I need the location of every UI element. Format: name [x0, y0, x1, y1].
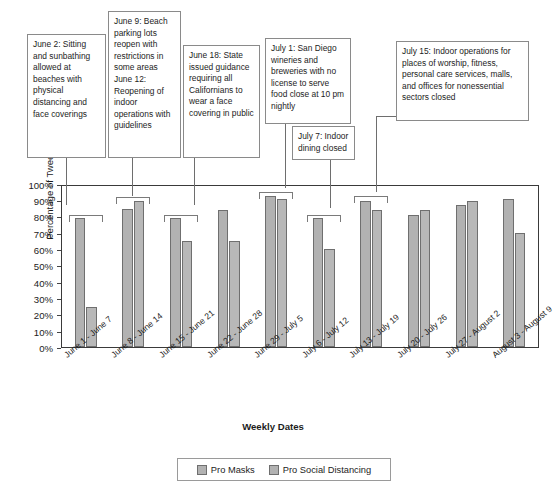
y-tick-mark-100 [57, 185, 61, 186]
y-tick-label-80: 80% [17, 212, 53, 223]
group-bracket-2 [164, 215, 198, 222]
y-tick-mark-20 [57, 315, 61, 316]
annotation-text: July 15: Indoor operations for places of… [402, 46, 512, 102]
y-tick-label-40: 40% [17, 278, 53, 289]
legend-item-pro-masks: Pro Masks [197, 465, 255, 475]
y-tick-mark-40 [57, 283, 61, 284]
y-tick-label-20: 20% [17, 310, 53, 321]
annotation-june-18: June 18: State issued guidance requiring… [183, 45, 260, 158]
y-tick-label-90: 90% [17, 196, 53, 207]
legend-swatch-icon [197, 465, 207, 475]
y-tick-label-0: 0% [17, 343, 53, 354]
annotation-text: July 1: San Diego wineries and breweries… [271, 43, 344, 111]
y-tick-label-100: 100% [17, 180, 53, 191]
y-tick-mark-0 [57, 348, 61, 349]
annotation-text: July 7: Indoor dining closed [298, 131, 348, 153]
y-tick-mark-50 [57, 266, 61, 267]
legend-item-pro-social-distancing: Pro Social Distancing [269, 465, 371, 475]
leader-line-july-15-horizontal [376, 116, 398, 117]
annotation-july-1: July 1: San Diego wineries and breweries… [265, 38, 351, 124]
group-bracket-0 [69, 215, 103, 222]
y-tick-label-70: 70% [17, 229, 53, 240]
annotation-july-7: July 7: Indoor dining closed [292, 126, 355, 160]
y-tick-label-50: 50% [17, 261, 53, 272]
group-bracket-5 [307, 215, 341, 222]
group-bracket-1 [116, 197, 150, 204]
leader-line-july-15-vertical [376, 116, 377, 192]
y-tick-mark-70 [57, 234, 61, 235]
legend-label: Pro Masks [211, 465, 255, 475]
y-tick-mark-30 [57, 299, 61, 300]
y-tick-mark-90 [57, 201, 61, 202]
group-bracket-4 [259, 192, 293, 199]
annotation-text: June 9: Beach parking lots reopen with r… [114, 16, 170, 130]
y-tick-mark-80 [57, 217, 61, 218]
annotation-july-15: July 15: Indoor operations for places of… [396, 41, 529, 121]
chart-legend: Pro Masks Pro Social Distancing [177, 458, 391, 481]
group-bracket-6 [354, 196, 388, 203]
annotation-june-2: June 2: Sitting and sunbathing allowed a… [27, 34, 106, 158]
legend-label: Pro Social Distancing [283, 465, 371, 475]
leader-line-july-1 [285, 124, 286, 188]
annotation-text: June 2: Sitting and sunbathing allowed a… [33, 39, 90, 119]
y-tick-mark-60 [57, 250, 61, 251]
legend-swatch-icon [269, 465, 279, 475]
annotation-text: June 18: State issued guidance requiring… [189, 50, 254, 118]
y-tick-mark-10 [57, 332, 61, 333]
y-tick-label-30: 30% [17, 294, 53, 305]
annotation-june-9-12: June 9: Beach parking lots reopen with r… [108, 11, 181, 158]
y-tick-label-10: 10% [17, 327, 53, 338]
y-tick-label-60: 60% [17, 245, 53, 256]
x-axis-title: Weekly Dates [0, 421, 546, 432]
